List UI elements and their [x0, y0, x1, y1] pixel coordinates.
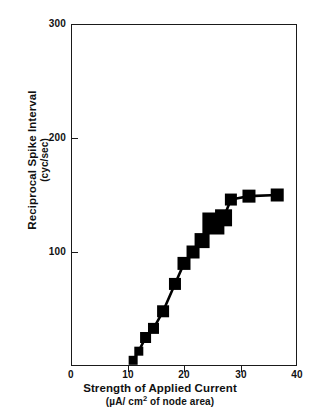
x-axis-title-units: (µA/ cm2 of node area) [0, 396, 320, 407]
y-tick-label-100: 100 [49, 247, 66, 257]
x-tick-label-10: 10 [113, 370, 143, 380]
data-point-marker [271, 189, 284, 202]
data-point-marker [129, 356, 138, 365]
data-point-marker [178, 257, 191, 270]
chart-figure: 300 200 100 0 10 20 30 40 Reciprocal Spi… [0, 0, 320, 419]
y-axis-title-units: (cyc/sec) [39, 60, 50, 260]
data-point-marker [134, 347, 143, 356]
x-axis-units-prefix: (µA/ cm [106, 396, 143, 407]
y-tick-label-200: 200 [49, 133, 66, 143]
y-axis-title: Reciprocal Spike Interval (cyc/sec) [26, 60, 50, 260]
y-tick-mark-200 [71, 138, 78, 139]
x-axis-title: Strength of Applied Current (µA/ cm2 of … [0, 382, 320, 407]
data-point-marker [215, 209, 232, 226]
x-axis-units-suffix: of node area) [147, 396, 214, 407]
data-series-layer [71, 24, 297, 366]
data-point-marker [169, 278, 181, 290]
data-point-marker [225, 194, 237, 206]
data-point-marker [148, 323, 159, 334]
x-tick-label-30: 30 [226, 370, 256, 380]
x-tick-label-40: 40 [282, 370, 312, 380]
data-point-marker [195, 233, 210, 248]
x-axis-title-main: Strength of Applied Current [0, 382, 320, 394]
x-tick-label-0: 0 [56, 370, 86, 380]
y-axis-title-main: Reciprocal Spike Interval [26, 60, 38, 260]
data-point-marker [242, 190, 255, 203]
x-tick-label-20: 20 [169, 370, 199, 380]
y-tick-mark-100 [71, 252, 78, 253]
data-point-marker [157, 305, 169, 317]
y-tick-label-300: 300 [49, 19, 66, 29]
